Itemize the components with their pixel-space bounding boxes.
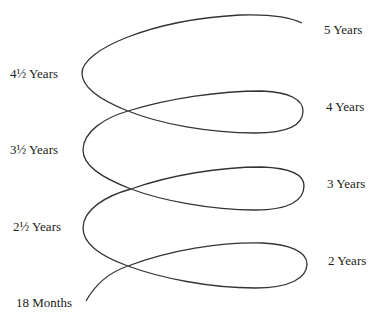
label-3-5-years: 3½ Years <box>10 142 58 158</box>
label-4-years: 4 Years <box>326 99 364 115</box>
spiral-path <box>82 15 307 301</box>
label-2-years: 2 Years <box>328 253 366 269</box>
label-2-5-years: 2½ Years <box>13 219 61 235</box>
label-3-years: 3 Years <box>327 176 365 192</box>
label-5-years: 5 Years <box>324 22 362 38</box>
label-18-months: 18 Months <box>16 295 72 311</box>
label-4-5-years: 4½ Years <box>10 66 58 82</box>
spiral-diagram <box>0 0 377 317</box>
